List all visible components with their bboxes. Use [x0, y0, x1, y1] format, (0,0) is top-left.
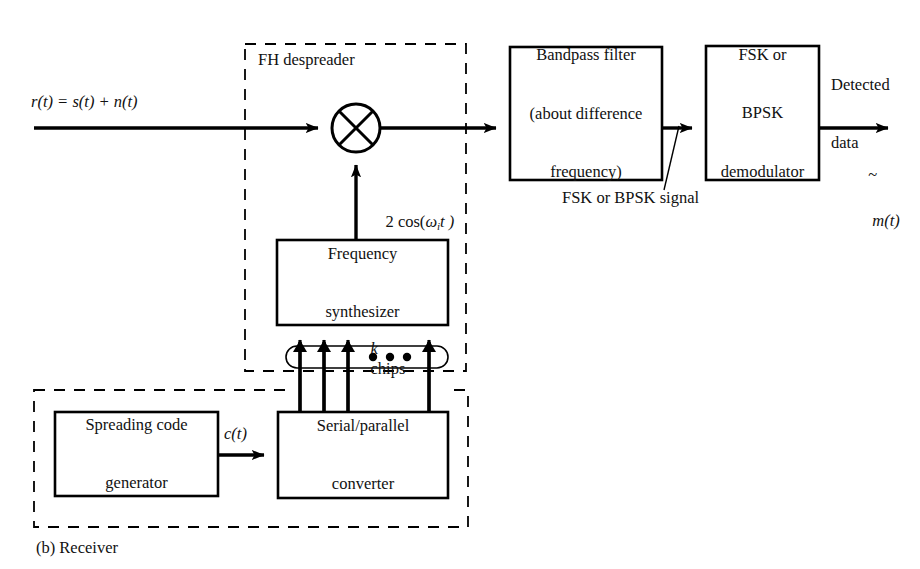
- bus-ellipsis-dot-3: [403, 353, 411, 361]
- block-bandpass-filter: [510, 47, 662, 180]
- bus-ellipsis-dot-2: [386, 353, 394, 361]
- block-serial-parallel-converter: [278, 412, 448, 498]
- block-fsk-bpsk-demodulator: [706, 46, 819, 180]
- block-diagram-svg: [0, 0, 920, 569]
- leader-line-fsk-bpsk-signal: [664, 126, 679, 190]
- block-spreading-code-generator: [55, 412, 218, 496]
- bus-ellipsis-dot-1: [369, 353, 377, 361]
- block-frequency-synthesizer: [277, 240, 448, 325]
- figure-canvas: FH despreader r(t) = s(t) + n(t) 2 cos(ω…: [0, 0, 920, 569]
